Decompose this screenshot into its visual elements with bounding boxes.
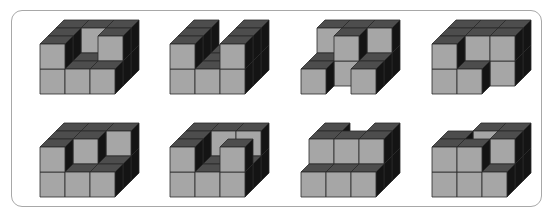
cube-drawing <box>299 18 402 96</box>
cube-drawing <box>38 121 141 199</box>
cube-figure-7 <box>299 121 409 216</box>
cube-drawing <box>430 18 533 96</box>
cube-figure-8 <box>430 121 540 216</box>
cube-figure-2 <box>168 18 278 113</box>
cube-figure-4 <box>430 18 540 113</box>
cube-drawing <box>168 121 271 199</box>
cube-figure-1 <box>38 18 148 113</box>
cube-figure-3 <box>299 18 409 113</box>
cube-figure-6 <box>168 121 278 216</box>
cube-drawing <box>299 121 402 199</box>
cube-drawing <box>430 121 533 199</box>
cube-figure-5 <box>38 121 148 216</box>
cube-drawing <box>168 18 271 96</box>
cube-drawing <box>38 18 141 96</box>
